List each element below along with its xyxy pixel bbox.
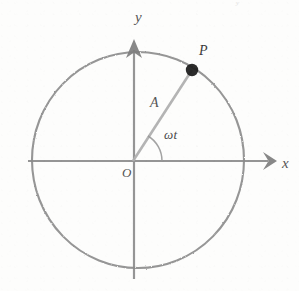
figure-canvas bbox=[0, 0, 299, 291]
point-p-label: P bbox=[199, 44, 208, 58]
x-axis bbox=[28, 152, 277, 170]
angle-arc bbox=[148, 136, 162, 161]
radius-line bbox=[133, 70, 192, 161]
point-p-marker bbox=[186, 64, 198, 76]
y-axis-label: y bbox=[135, 10, 142, 25]
scan-edge-artifact: y bbox=[236, 0, 240, 7]
x-axis-label: x bbox=[282, 156, 289, 171]
origin-label: O bbox=[122, 166, 131, 179]
circular-motion-figure: y x P A O ωt y bbox=[0, 0, 299, 291]
radius-label: A bbox=[150, 96, 159, 110]
angle-label: ωt bbox=[164, 128, 177, 141]
